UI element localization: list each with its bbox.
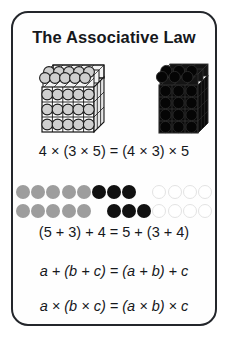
dot-gray [16, 185, 30, 199]
equation-multiplication-algebraic: a × (b × c) = (a × b) × c [13, 298, 215, 314]
dot-group-white [152, 185, 213, 199]
dot-white [198, 185, 212, 199]
dot-black [122, 185, 136, 199]
dot-diagram [13, 181, 215, 221]
dot-row [13, 202, 215, 219]
dot-white [183, 204, 197, 218]
dot-black [92, 185, 106, 199]
dark-cube-illustration [154, 63, 216, 135]
dot-white [152, 185, 166, 199]
dot-group-gray [15, 204, 91, 218]
dot-group-gray [15, 185, 91, 199]
dot-gray [77, 185, 91, 199]
light-cube-illustration [38, 63, 106, 135]
dot-group-black [91, 185, 137, 199]
dot-white [183, 185, 197, 199]
dot-group-black [106, 204, 152, 218]
page-title: The Associative Law [13, 28, 215, 47]
dot-black [107, 185, 121, 199]
dot-black [107, 204, 121, 218]
dot-black [137, 204, 151, 218]
dot-black [122, 204, 136, 218]
dot-white [152, 204, 166, 218]
dot-group-white [152, 204, 213, 218]
block-illustrations [13, 63, 215, 137]
dot-gray [62, 185, 76, 199]
dot-gray [16, 204, 30, 218]
dot-gray [46, 204, 60, 218]
dot-gray [31, 204, 45, 218]
dot-white [168, 204, 182, 218]
dot-row [13, 183, 215, 200]
associative-law-card: The Associative Law [11, 11, 217, 326]
dot-gray [46, 185, 60, 199]
dot-gray [77, 204, 91, 218]
dot-gray [31, 185, 45, 199]
dot-gray [62, 204, 76, 218]
dot-white [168, 185, 182, 199]
dot-white [198, 204, 212, 218]
equation-addition-algebraic: a + (b + c) = (a + b) + c [13, 263, 215, 279]
equation-multiplication-numeric: 4 × (3 × 5) = (4 × 3) × 5 [13, 143, 215, 159]
equation-addition-numeric: (5 + 3) + 4 = 5 + (3 + 4) [13, 224, 215, 240]
